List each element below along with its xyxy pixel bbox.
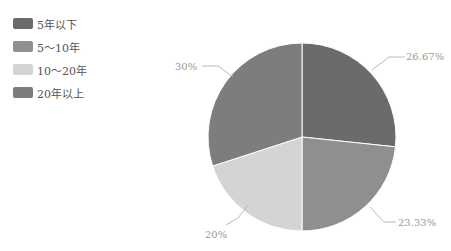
slice-label-under-5: 26.67% [406, 51, 444, 62]
slice-label-5-10: 23.33% [398, 217, 436, 228]
slice-label-10-20: 20% [205, 229, 227, 240]
pie-slice-5-10[interactable] [302, 137, 395, 231]
slice-label-over-20: 30% [175, 61, 197, 72]
pie-chart: 26.67% 23.33% 20% 30% [0, 0, 451, 251]
pie-slices [208, 43, 396, 231]
pie-slice-under-5[interactable] [302, 43, 396, 147]
